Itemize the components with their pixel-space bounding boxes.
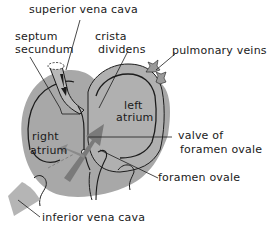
label-right-atrium-2: atrium [30, 145, 68, 157]
label-septum-secundum-1: septum [15, 31, 58, 43]
superior-vena-cava-opening [48, 63, 64, 70]
label-pulmonary-veins: pulmonary veins [172, 45, 267, 57]
label-crista-dividens-1: crista [95, 31, 127, 43]
label-valve-of-foramen-ovale-2: foramen ovale [180, 144, 262, 156]
label-septum-secundum-2: secundum [15, 44, 74, 56]
label-valve-of-foramen-ovale-1: valve of [178, 130, 223, 142]
label-crista-dividens-2: dividens [98, 44, 146, 56]
label-foramen-ovale: foramen ovale [158, 172, 240, 184]
label-inferior-vena-cava: inferior vena cava [42, 212, 145, 224]
label-superior-vena-cava: superior vena cava [29, 4, 138, 16]
label-left-atrium-2: atrium [116, 112, 154, 124]
inferior-vena-cava-vessel [8, 182, 40, 216]
label-right-atrium-1: right [32, 131, 59, 143]
